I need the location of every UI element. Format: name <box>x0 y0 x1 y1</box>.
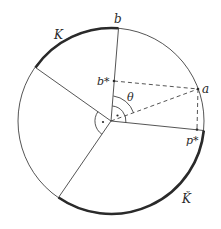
dashed-a-to-pstar <box>197 89 198 130</box>
arc-K <box>36 28 119 67</box>
circle-diagram: K b b* a θ p* Ǩ <box>0 0 221 229</box>
label-theta: θ <box>127 91 134 104</box>
right-angle-dot-right <box>116 114 118 116</box>
right-angle-dot-left <box>102 121 104 123</box>
point-b-star <box>113 80 116 83</box>
point-a <box>197 88 200 91</box>
label-K-check: Ǩ <box>181 191 192 206</box>
label-b: b <box>114 12 122 26</box>
point-p-star <box>196 128 199 131</box>
radius-to-p <box>111 121 204 131</box>
radius-lower-left <box>59 121 112 198</box>
dashed-center-to-a <box>111 89 198 121</box>
label-p-star: p* <box>186 134 199 147</box>
dashed-bstar-to-a <box>114 81 198 89</box>
right-angle-arc-left <box>95 112 102 135</box>
label-K: K <box>53 28 64 42</box>
label-a: a <box>202 82 209 96</box>
label-b-star: b* <box>97 75 110 88</box>
